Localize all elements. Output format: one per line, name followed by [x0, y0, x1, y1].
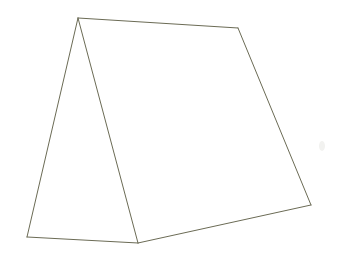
- tent-line-drawing: [0, 0, 339, 263]
- paper-smudge-artifact: [319, 141, 325, 151]
- drawing-canvas: [0, 0, 339, 263]
